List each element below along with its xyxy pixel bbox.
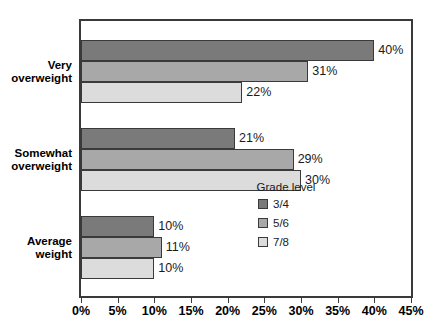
- x-axis-tick: [81, 298, 82, 303]
- x-axis-tick-label: 10%: [134, 304, 174, 318]
- bar-row: 29%: [81, 149, 411, 170]
- x-axis-tick: [411, 298, 412, 303]
- x-axis-tick: [338, 298, 339, 303]
- bar-7-8: [81, 82, 242, 103]
- x-axis-tick-label: 40%: [354, 304, 394, 318]
- legend-swatch-icon: [258, 199, 268, 209]
- legend-items: 3/45/67/8: [244, 198, 328, 248]
- category-label-line: Average: [0, 235, 72, 248]
- category-label: Averageweight: [0, 235, 72, 261]
- legend: Grade level 3/45/67/8: [244, 181, 328, 255]
- bar-value-label: 31%: [308, 61, 337, 82]
- legend-item-5-6: 5/6: [258, 217, 328, 229]
- bar-chart: VeryoverweightSomewhatoverweightAveragew…: [0, 0, 437, 336]
- bar-value-label: 21%: [235, 128, 264, 149]
- legend-swatch-icon: [258, 237, 268, 247]
- bar-5-6: [81, 237, 162, 258]
- bar-3-4: [81, 40, 374, 61]
- x-axis-tick-label: 45%: [391, 304, 431, 318]
- x-axis-tick: [154, 298, 155, 303]
- x-axis-tick-label: 35%: [318, 304, 358, 318]
- bar-value-label: 10%: [154, 216, 183, 237]
- category-label: Somewhatoverweight: [0, 147, 72, 173]
- bar-row: 10%: [81, 258, 411, 279]
- cropped-title-strip: [0, 0, 437, 10]
- bar-3-4: [81, 216, 154, 237]
- legend-item-7-8: 7/8: [258, 236, 328, 248]
- legend-label: 5/6: [273, 217, 289, 229]
- bar-5-6: [81, 61, 308, 82]
- legend-label: 3/4: [273, 198, 289, 210]
- bar-value-label: 29%: [294, 149, 323, 170]
- x-axis-tick-label: 5%: [98, 304, 138, 318]
- x-axis-tick-label: 15%: [171, 304, 211, 318]
- bar-value-label: 22%: [242, 82, 271, 103]
- x-axis-tick-label: 25%: [244, 304, 284, 318]
- x-axis-tick: [191, 298, 192, 303]
- x-axis-tick: [118, 298, 119, 303]
- category-label: Veryoverweight: [0, 59, 72, 85]
- category-label-line: Somewhat: [0, 147, 72, 160]
- category-label-line: overweight: [0, 160, 72, 173]
- category-label-line: Very: [0, 59, 72, 72]
- bar-row: 40%: [81, 40, 411, 61]
- bar-3-4: [81, 128, 235, 149]
- x-axis-tick: [228, 298, 229, 303]
- bar-row: 22%: [81, 82, 411, 103]
- category-label-line: weight: [0, 248, 72, 261]
- x-axis-tick-label: 20%: [208, 304, 248, 318]
- category-label-line: overweight: [0, 72, 72, 85]
- x-axis-tick: [264, 298, 265, 303]
- bar-row: 31%: [81, 61, 411, 82]
- bar-row: 21%: [81, 128, 411, 149]
- legend-item-3-4: 3/4: [258, 198, 328, 210]
- x-axis-tick-label: 0%: [61, 304, 101, 318]
- legend-title: Grade level: [244, 181, 328, 193]
- bar-7-8: [81, 258, 154, 279]
- x-axis-tick-label: 30%: [281, 304, 321, 318]
- bar-value-label: 10%: [154, 258, 183, 279]
- legend-label: 7/8: [273, 236, 289, 248]
- bar-value-label: 11%: [162, 237, 190, 258]
- legend-swatch-icon: [258, 218, 268, 228]
- bar-5-6: [81, 149, 294, 170]
- x-axis-tick: [374, 298, 375, 303]
- x-axis-tick: [301, 298, 302, 303]
- bar-value-label: 40%: [374, 40, 403, 61]
